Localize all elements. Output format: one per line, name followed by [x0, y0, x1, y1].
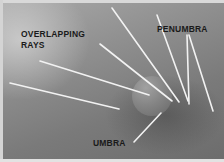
- ray-line-2: [10, 83, 119, 109]
- ray-line-3: [100, 44, 172, 101]
- label-line-overlapping: OVERLAPPING: [21, 29, 91, 40]
- penumbra-pointer-1: [187, 35, 189, 104]
- ray-line-1: [40, 61, 149, 95]
- penumbra-pointer-2: [189, 35, 213, 111]
- overlapping-rays-label: OVERLAPPING RAYS: [21, 29, 91, 51]
- umbra-label: UMBRA: [93, 138, 126, 149]
- ray-line-4: [112, 8, 179, 102]
- penumbra-label: PENUMBRA: [157, 24, 208, 35]
- label-line-rays: RAYS: [21, 40, 91, 51]
- shadow-diagram-photo: OVERLAPPING RAYS PENUMBRA UMBRA: [0, 0, 224, 162]
- umbra-pointer: [134, 113, 161, 142]
